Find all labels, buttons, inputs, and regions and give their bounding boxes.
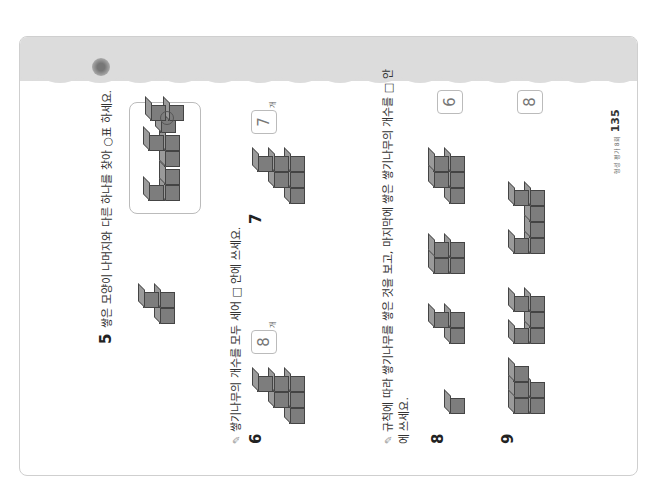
q6-label: 6 bbox=[247, 428, 265, 444]
rotated-content: 5쌓은 모양이 나머지와 다른 하나를 찾아 ○표 하세요. ✎쌓기나무의 개수… bbox=[19, 36, 636, 474]
q5-number: 5 bbox=[97, 334, 115, 344]
q5-prompt: 5쌓은 모양이 나머지와 다른 하나를 찾아 ○표 하세요. bbox=[97, 90, 115, 344]
section1-instruction: ✎쌓기나무의 개수를 모두 세어 □ 안에 쓰세요. bbox=[227, 227, 243, 444]
q7-label: 7 bbox=[247, 208, 265, 224]
pencil-icon: ✎ bbox=[231, 436, 242, 444]
q7-answer-box[interactable]: 7 bbox=[251, 110, 277, 134]
section2-instruction: ✎규칙에 따라 쌓기나무를 쌓은 것을 보고, 마지막에 쌓은 쌓기나무의 개수… bbox=[379, 64, 411, 444]
pencil-icon: ✎ bbox=[383, 436, 394, 444]
q5-text: 쌓은 모양이 나머지와 다른 하나를 찾아 ○표 하세요. bbox=[101, 90, 114, 328]
q9-label: 9 bbox=[499, 428, 517, 444]
circle-mark-icon bbox=[160, 111, 174, 125]
page-number: 135 bbox=[609, 109, 622, 132]
page-footer: 형성 평가 8회135 bbox=[609, 109, 622, 174]
q8-answer-box[interactable]: 6 bbox=[437, 90, 463, 114]
q5-choices-box bbox=[129, 102, 201, 214]
q6-answer-box[interactable]: 8 bbox=[251, 330, 277, 354]
q9-answer-box[interactable]: 8 bbox=[517, 90, 543, 114]
q8-label: 8 bbox=[429, 428, 447, 444]
